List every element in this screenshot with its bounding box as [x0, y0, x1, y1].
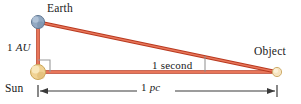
label-object: Object — [254, 46, 286, 58]
label-earth: Earth — [47, 3, 73, 15]
sun-shade-icon — [37, 72, 45, 80]
dimension-arrowhead-left — [40, 88, 48, 94]
label-parsec-distance: 1 pc — [141, 82, 160, 93]
dimension-arrowhead-right — [267, 88, 275, 94]
baseline-unit: AU — [16, 41, 31, 53]
body-object — [272, 67, 281, 76]
sun-highlight-icon — [32, 66, 40, 74]
distance-value: 1 — [141, 81, 147, 93]
baseline-value: 1 — [7, 41, 13, 53]
body-sun — [31, 65, 46, 80]
earth-shade-icon — [37, 22, 44, 29]
object-highlight-icon — [274, 69, 278, 73]
label-sun: Sun — [5, 83, 24, 95]
parallax-parsec-diagram: Earth Object Sun 1 AU 1 second 1 pc — [0, 0, 301, 104]
earth-highlight-icon — [32, 16, 38, 22]
label-parallax-angle: 1 second — [152, 60, 192, 71]
distance-unit: pc — [150, 81, 161, 93]
body-earth — [32, 16, 45, 29]
label-baseline-distance: 1 AU — [7, 42, 31, 53]
